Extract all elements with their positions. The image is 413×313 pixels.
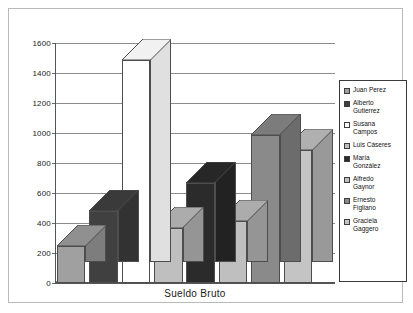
legend-swatch-alberto-gutierrez: [344, 101, 350, 107]
bar-front-face: [57, 246, 85, 284]
bar[interactable]: [57, 246, 85, 284]
legend-item[interactable]: Susana Campos: [344, 120, 403, 136]
legend-swatch-graciela-gaggero: [344, 219, 350, 225]
legend-swatch-susana-campos: [344, 122, 350, 128]
y-tick-label: 600: [37, 189, 51, 198]
legend-item[interactable]: Alberto Gutierrez: [344, 99, 403, 115]
bar-top-face: [251, 114, 300, 135]
legend-item-label: Luis Cáseres: [353, 141, 391, 149]
x-axis-title: Sueldo Bruto: [55, 288, 335, 299]
plot-area: 02004006008001000120014001600: [55, 43, 335, 283]
legend-item-label: Ernesto Figliano: [353, 196, 376, 212]
legend-swatch-juan-perez: [344, 88, 350, 94]
legend-swatch-luis-caseres: [344, 143, 350, 149]
y-tick-label: 1600: [32, 39, 51, 48]
legend-swatch-ernesto-figliano: [344, 198, 350, 204]
y-tick-label: 400: [37, 219, 51, 228]
chart-legend: Juan PerezAlberto GutierrezSusana Campos…: [339, 80, 407, 282]
legend-item-label: Alfredo Gaynor: [353, 175, 374, 191]
bar-top-face: [122, 39, 171, 60]
legend-item[interactable]: María González: [344, 154, 403, 170]
legend-item-label: María González: [353, 154, 380, 170]
bar-top-face: [89, 190, 138, 211]
legend-item[interactable]: Ernesto Figliano: [344, 196, 403, 212]
legend-item-label: Alberto Gutierrez: [353, 99, 380, 115]
legend-item-label: Juan Perez: [353, 86, 386, 94]
chart-frame: 02004006008001000120014001600 Sueldo Bru…: [8, 8, 403, 303]
legend-item[interactable]: Graciela Gaggero: [344, 217, 403, 233]
y-tick-mark: [52, 283, 55, 284]
legend-item[interactable]: Alfredo Gaynor: [344, 175, 403, 191]
bar-series: [55, 43, 335, 283]
bar-side-face: [150, 39, 171, 263]
legend-item[interactable]: Juan Perez: [344, 86, 403, 94]
legend-swatch-maria-gonzalez: [344, 156, 350, 162]
bar-side-face: [280, 114, 301, 263]
y-tick-label: 1200: [32, 99, 51, 108]
legend-item[interactable]: Luis Cáseres: [344, 141, 403, 149]
bar-top-face: [57, 225, 106, 246]
legend-item-label: Graciela Gaggero: [353, 217, 378, 233]
y-tick-label: 1000: [32, 129, 51, 138]
gridline: [55, 283, 335, 284]
y-tick-label: 1400: [32, 69, 51, 78]
bar-top-face: [186, 162, 235, 183]
legend-swatch-alfredo-gaynor: [344, 177, 350, 183]
y-tick-label: 0: [46, 279, 51, 288]
legend-item-label: Susana Campos: [353, 120, 377, 136]
y-tick-label: 800: [37, 159, 51, 168]
y-tick-label: 200: [37, 249, 51, 258]
